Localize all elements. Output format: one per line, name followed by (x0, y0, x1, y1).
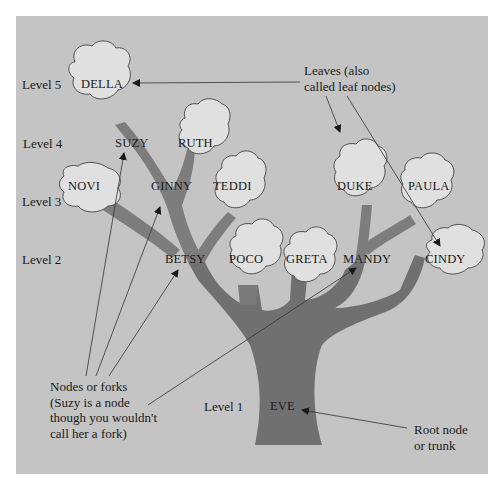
leaves-annotation-line2: called leaf nodes) (304, 79, 396, 95)
node-duke: DUKE (337, 179, 373, 194)
forks-annotation-line2: (Suzy is a node (50, 395, 157, 411)
forks-annotation-line1: Nodes or forks (50, 379, 157, 395)
level-5-label: Level 5 (22, 77, 61, 92)
leaves-annotation-line1: Leaves (also (304, 63, 396, 79)
level-2-label: Level 2 (22, 252, 61, 267)
node-teddi: TEDDI (213, 179, 252, 194)
root-annotation: Root node or trunk (414, 422, 468, 453)
node-greta: GRETA (286, 252, 328, 267)
node-suzy: SUZY (115, 136, 148, 151)
root-annotation-line2: or trunk (414, 438, 468, 454)
node-novi: NOVI (68, 179, 100, 194)
root-annotation-line1: Root node (414, 422, 468, 438)
level-4-label: Level 4 (23, 136, 62, 151)
node-poco: POCO (229, 252, 263, 267)
node-mandy: MANDY (343, 252, 391, 267)
node-della: DELLA (81, 77, 123, 92)
forks-annotation-line3: though you wouldn't (50, 410, 157, 426)
level-1-label: Level 1 (204, 399, 243, 414)
node-eve: EVE (270, 399, 295, 414)
level-3-label: Level 3 (22, 194, 61, 209)
forks-annotation-line4: call her a fork) (50, 426, 157, 442)
node-ginny: GINNY (151, 179, 192, 194)
node-cindy: CINDY (425, 252, 466, 267)
leaf-clouds (60, 41, 485, 282)
node-betsy: BETSY (165, 252, 206, 267)
node-paula: PAULA (408, 179, 450, 194)
leaves-annotation: Leaves (also called leaf nodes) (304, 63, 396, 94)
forks-annotation: Nodes or forks (Suzy is a node though yo… (50, 379, 157, 441)
node-ruth: RUTH (178, 136, 213, 151)
